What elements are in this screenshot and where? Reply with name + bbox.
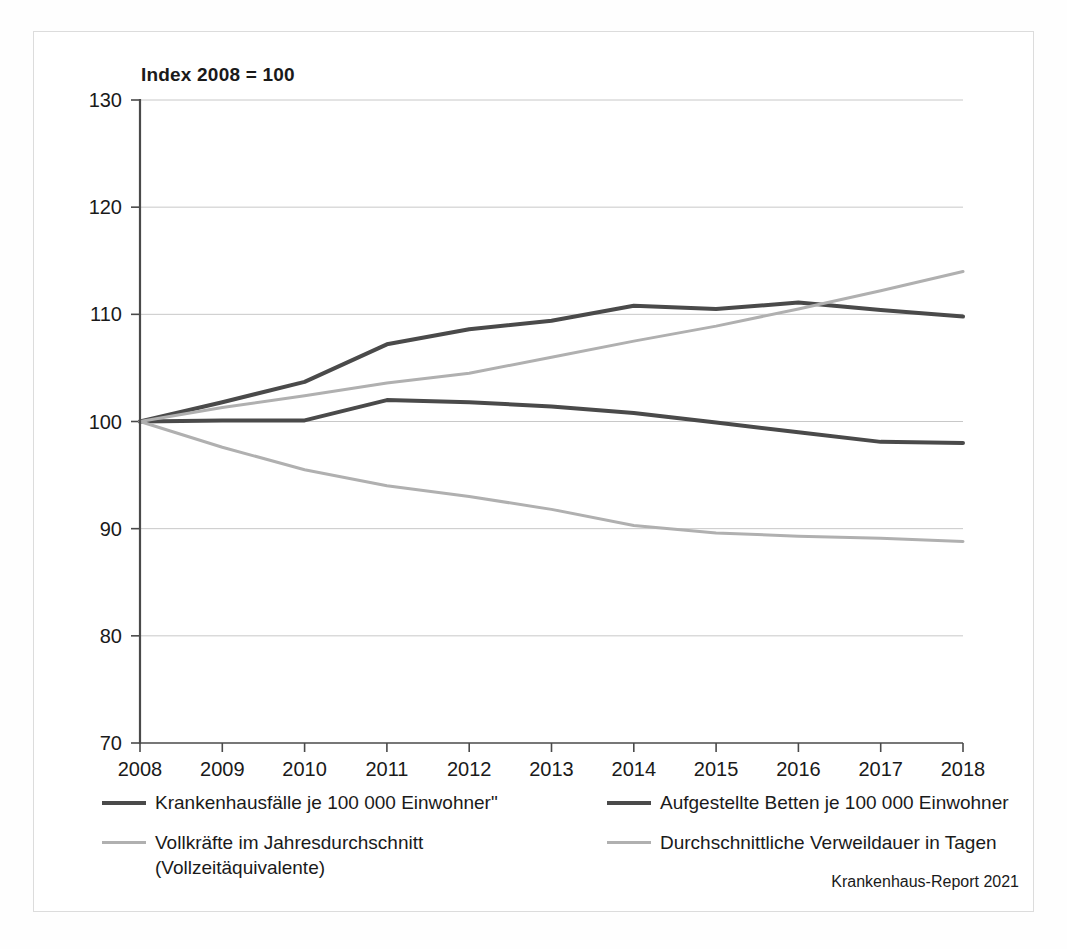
y-tick-label: 130 [89, 89, 122, 111]
legend-entry-right-0[interactable]: Aufgestellte Betten je 100 000 Einwohner [605, 790, 1045, 824]
x-tick-label: 2017 [858, 758, 903, 780]
legend-swatch-icon [102, 801, 146, 805]
x-tick-label: 2015 [694, 758, 739, 780]
x-tick-label: 2016 [776, 758, 821, 780]
legend-swatch-icon [607, 801, 651, 805]
y-tick-label: 110 [90, 303, 122, 325]
x-tick-label: 2012 [447, 758, 492, 780]
legend-label: Krankenhausfälle je 100 000 Einwohner" [155, 792, 498, 813]
y-tick-label: 90 [100, 518, 122, 540]
legend-entry-left-1[interactable]: Vollkräfte im Jahresdurchschnitt (Vollze… [100, 830, 530, 880]
series-line-2 [140, 271, 963, 421]
y-tick-label: 80 [100, 625, 122, 647]
y-tick-label: 100 [89, 411, 122, 433]
data-series-group [140, 271, 963, 541]
gridlines [140, 100, 963, 636]
source-note: Krankenhaus-Report 2021 [831, 873, 1019, 891]
y-tick-label: 70 [100, 732, 122, 754]
legend-swatch-icon [102, 841, 146, 844]
legend-label: Durchschnittliche Verweildauer in Tagen [660, 832, 997, 853]
x-tick-label: 2018 [941, 758, 986, 780]
x-tick-label: 2014 [612, 758, 657, 780]
legend-label: Aufgestellte Betten je 100 000 Einwohner [660, 792, 1009, 813]
figure-canvas: Index 2008 = 100 708090100110120130 2008… [0, 0, 1067, 949]
legend-label: Vollkräfte im Jahresdurchschnitt (Vollze… [155, 832, 423, 878]
y-tick-label: 120 [89, 196, 122, 218]
x-tick-label: 2011 [365, 758, 408, 780]
x-tick-label: 2013 [529, 758, 574, 780]
legend-column-right: Aufgestellte Betten je 100 000 Einwohner… [605, 790, 1045, 870]
y-axis-tick-labels: 708090100110120130 [89, 89, 122, 754]
legend-swatch-icon [607, 841, 651, 844]
x-tick-label: 2008 [118, 758, 163, 780]
x-axis-tick-labels: 2008200920102011201220132014201520162017… [118, 758, 986, 780]
x-tick-label: 2010 [282, 758, 327, 780]
x-tick-label: 2009 [200, 758, 245, 780]
legend-entry-right-1[interactable]: Durchschnittliche Verweildauer in Tagen [605, 830, 1045, 864]
series-line-0 [140, 303, 963, 422]
x-axis-ticks [140, 743, 963, 752]
series-line-3 [140, 422, 963, 542]
legend-column-left: Krankenhausfälle je 100 000 Einwohner"Vo… [100, 790, 530, 886]
legend-entry-left-0[interactable]: Krankenhausfälle je 100 000 Einwohner" [100, 790, 530, 824]
